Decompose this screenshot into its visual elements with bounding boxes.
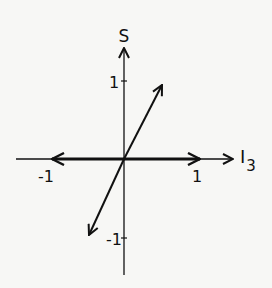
s-axis-label: S bbox=[119, 26, 130, 46]
i3-tick-label-plus-one: 1 bbox=[192, 167, 202, 186]
i3-axis-label-subscript: 3 bbox=[246, 157, 256, 175]
s-tick-label-plus-one: 1 bbox=[109, 73, 119, 92]
vector-upper-right bbox=[124, 85, 162, 159]
weight-diagram: S I3 1 -1 -1 1 bbox=[0, 0, 272, 288]
i3-axis-label: I3 bbox=[240, 146, 256, 175]
s-tick-label-minus-one: -1 bbox=[106, 230, 122, 249]
i3-tick-label-minus-one: -1 bbox=[38, 167, 54, 186]
vector-lower-left bbox=[89, 159, 124, 235]
i3-axis-label-main: I bbox=[240, 146, 245, 167]
